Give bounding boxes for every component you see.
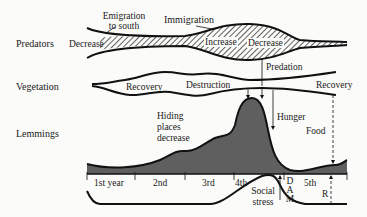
label-decrease-right: Decrease — [247, 38, 284, 48]
label-recovery-left: Recovery — [126, 82, 162, 92]
label-food: Food — [306, 126, 326, 136]
year-5: 5th — [304, 178, 316, 188]
label-decrease-left: Decrease — [69, 39, 104, 49]
label-dam: D A M — [285, 177, 295, 204]
lemming-cycle-diagram: Predators Vegetation Lemmings Decrease E… — [0, 0, 367, 217]
row-label-lemmings: Lemmings — [16, 129, 59, 139]
label-destruction: Destruction — [186, 80, 230, 90]
year-1: 1st year — [94, 178, 124, 188]
hiding-line1: Hiding — [157, 111, 190, 122]
hiding-line3: decrease — [157, 133, 190, 144]
hiding-line2: places — [157, 122, 190, 133]
emigration-line2: to south — [101, 21, 147, 31]
label-emigration: Emigration to south — [101, 11, 147, 31]
label-recovery-right: Recovery — [316, 80, 352, 90]
year-2: 2nd — [153, 178, 167, 188]
year-3: 3rd — [202, 178, 215, 188]
label-social-stress: Social stress — [246, 186, 280, 208]
label-immigration: Immigration — [164, 15, 214, 25]
row-label-predators: Predators — [16, 39, 54, 49]
emigration-line1: Emigration — [101, 11, 147, 21]
social-line2: stress — [246, 197, 280, 208]
social-line1: Social — [246, 186, 280, 197]
timeline-axis — [87, 172, 347, 204]
label-r: R — [322, 189, 328, 199]
label-predation: Predation — [266, 62, 302, 72]
dam-m: M — [285, 195, 295, 204]
row-label-vegetation: Vegetation — [16, 82, 59, 92]
label-hunger: Hunger — [277, 112, 306, 122]
label-hiding-places: Hiding places decrease — [157, 111, 190, 144]
label-increase: Increase — [204, 37, 238, 47]
